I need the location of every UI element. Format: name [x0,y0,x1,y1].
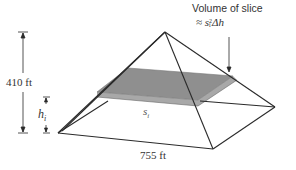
slice-height-subscript: i [44,114,46,123]
base-label: 755 ft [140,150,166,161]
pyramid-slice-diagram: 410 ft hi si 755 ft Volume of slice ≈ s2… [0,0,296,170]
height-label: 410 ft [6,77,32,88]
annotation-formula: ≈ s2iΔh [196,17,224,28]
annotation-arrow [227,37,231,72]
formula-prefix: ≈ s [196,16,209,28]
slice-side-subscript: i [147,112,149,120]
slice-side-label: si [143,106,149,120]
formula-subscript: i [209,22,211,28]
annotation-title: Volume of slice [192,3,263,14]
formula-suffix: Δh [212,16,224,28]
slice-height-label: hi [38,108,46,123]
pyramid-figure [0,0,296,170]
